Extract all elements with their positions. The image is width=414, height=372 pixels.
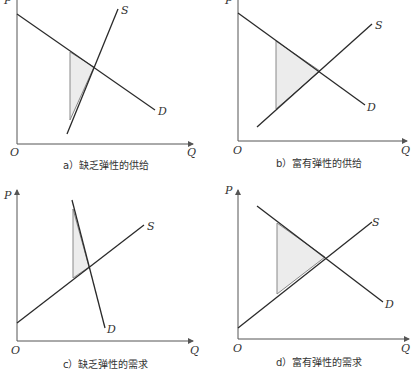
panel-caption: d）富有弹性的需求 <box>276 356 362 368</box>
origin-label: O <box>10 146 19 159</box>
panel-c: P S D O Q c）缺乏弹性的需求 <box>3 189 199 370</box>
price-axis-label: P <box>3 189 12 202</box>
supply-label: S <box>375 19 383 32</box>
panel-caption: c）缺乏弹性的需求 <box>63 358 149 370</box>
demand-label: D <box>106 323 116 336</box>
deadweight-loss-area <box>277 223 325 294</box>
supply-label: S <box>372 216 380 229</box>
deadweight-loss-area <box>70 52 94 120</box>
figure-canvas: S D O Q a）缺乏弹性的供给 S D O Q b）富有弹性的供给 P S … <box>0 0 414 372</box>
deadweight-loss-area <box>276 41 320 109</box>
origin-label: O <box>11 344 20 357</box>
panel-a: S D O Q a）缺乏弹性的供给 <box>10 0 196 171</box>
price-axis-label: P <box>224 184 233 197</box>
price-axis-label: P <box>3 0 12 7</box>
origin-label: O <box>233 144 242 157</box>
demand-curve <box>238 13 365 105</box>
supply-label: S <box>121 4 129 17</box>
demand-curve <box>17 14 155 110</box>
quantity-axis-label: Q <box>401 342 410 355</box>
deadweight-loss-area <box>73 209 89 278</box>
panel-caption: b）富有弹性的供给 <box>276 157 362 169</box>
origin-label: O <box>233 342 242 355</box>
demand-label: D <box>366 101 376 114</box>
quantity-axis-label: Q <box>401 144 410 157</box>
supply-label: S <box>147 220 155 233</box>
demand-label: D <box>384 298 394 311</box>
quantity-axis-label: Q <box>187 146 196 159</box>
demand-curve <box>257 206 383 302</box>
panel-b: S D O Q b）富有弹性的供给 <box>233 0 410 169</box>
demand-label: D <box>157 105 167 118</box>
panel-caption: a）缺乏弹性的供给 <box>63 159 149 171</box>
supply-curve <box>238 222 372 328</box>
panel-d: P S D O Q d）富有弹性的需求 <box>224 184 410 368</box>
price-axis-label: P <box>224 0 233 7</box>
quantity-axis-label: Q <box>190 344 199 357</box>
